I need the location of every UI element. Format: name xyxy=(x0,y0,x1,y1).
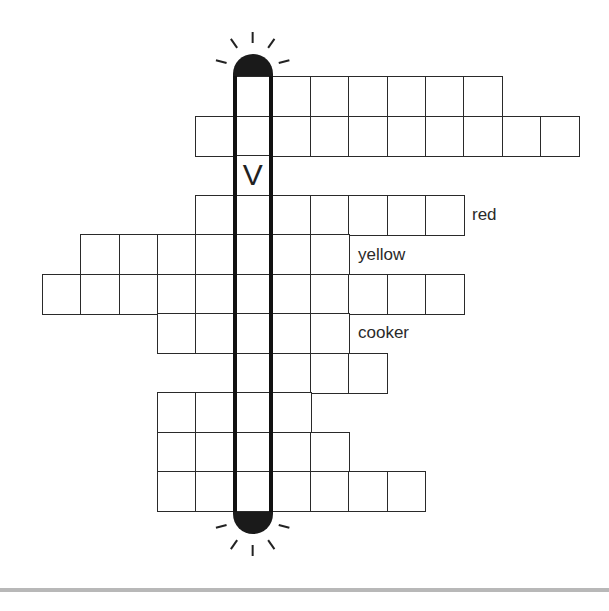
bottom-divider xyxy=(0,588,609,592)
bottom-glow-rays-icon xyxy=(0,0,609,611)
crossword-puzzle: red yellow cooker V xyxy=(0,0,609,611)
hidden-word-letter: V xyxy=(234,160,272,190)
